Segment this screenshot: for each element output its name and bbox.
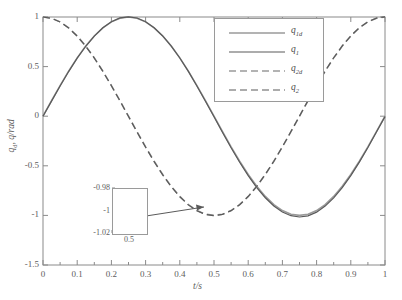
- inset-plot-box: [112, 188, 148, 235]
- x-tick-label: 0.2: [102, 269, 120, 279]
- x-tick-label: 0: [34, 269, 52, 279]
- y-axis-label-rest: , q/rad: [6, 119, 16, 144]
- legend-item-q_2[interactable]: q2: [215, 80, 323, 100]
- legend-item-q_2d[interactable]: q2d: [215, 61, 323, 81]
- y-axis-label: qd, q/rad: [6, 101, 18, 171]
- chart-figure: 00.10.20.30.40.50.60.70.80.91 10.50-0.5-…: [0, 0, 402, 300]
- y-tick-label: -1.5: [8, 259, 39, 269]
- x-tick-label: 0.1: [68, 269, 86, 279]
- y-axis-label-sub: d: [11, 145, 18, 148]
- plot-canvas: [0, 0, 402, 300]
- inset-y-tick-label: -1: [76, 206, 110, 215]
- x-tick-label: 0.9: [342, 269, 360, 279]
- legend-label-q_2: q2: [291, 82, 299, 94]
- legend-item-q_1d[interactable]: q1d: [215, 23, 323, 43]
- inset-y-tick-label: -1.02: [76, 228, 110, 237]
- y-tick-label: 0.5: [8, 61, 39, 71]
- legend: q1dq1q2dq2: [214, 18, 324, 102]
- inset-x-tick-label: 0.5: [119, 235, 139, 244]
- legend-item-q_1[interactable]: q1: [215, 42, 323, 62]
- x-tick-label: 0.6: [239, 269, 257, 279]
- legend-label-q_1d: q1d: [291, 25, 302, 37]
- x-tick-label: 0.7: [273, 269, 291, 279]
- legend-label-q_2d: q2d: [291, 63, 302, 75]
- x-tick-label: 1: [376, 269, 394, 279]
- x-axis-label: t/s: [193, 281, 202, 291]
- y-tick-label: 1: [8, 11, 39, 21]
- y-axis-label-q: q: [6, 148, 16, 153]
- y-tick-label: -1: [8, 209, 39, 219]
- x-tick-label: 0.4: [171, 269, 189, 279]
- inset-pointer-arrow: [146, 205, 204, 217]
- x-tick-label: 0.8: [308, 269, 326, 279]
- x-tick-label: 0.3: [137, 269, 155, 279]
- legend-label-q_1: q1: [291, 44, 299, 56]
- inset-y-tick-label: -0.98: [76, 183, 110, 192]
- x-tick-label: 0.5: [205, 269, 223, 279]
